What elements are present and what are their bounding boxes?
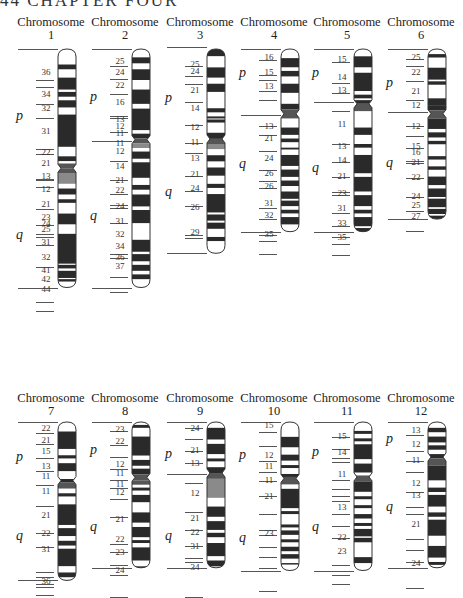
band-label: 14 [111, 162, 129, 171]
band-label: 14 [333, 448, 351, 457]
band-label: 13 [407, 426, 425, 435]
band-boundary-tick [332, 213, 350, 214]
q-arm-label: q [386, 499, 393, 515]
chromosome-body [427, 421, 447, 569]
band-boundary-tick [36, 118, 54, 119]
band-boundary-tick [406, 507, 424, 508]
p-arm-label: p [312, 444, 319, 460]
band-label: 26 [260, 169, 278, 178]
band-label: 21 [111, 176, 129, 185]
band-boundary-tick [406, 539, 424, 540]
p-arm-label: p [16, 449, 23, 465]
band-label: 13 [260, 122, 278, 131]
band-label: 24 [111, 202, 129, 211]
band-label: 15 [333, 432, 351, 441]
band-label: 22 [111, 186, 129, 195]
q-arm-label: q [312, 519, 319, 535]
band-boundary-tick [18, 49, 58, 50]
band-label: 21 [37, 200, 55, 209]
band-label: 44 [37, 285, 55, 294]
band-boundary-tick [406, 81, 424, 82]
band-boundary-tick [406, 451, 424, 452]
band-boundary-tick [388, 422, 428, 423]
band-boundary-tick [36, 595, 54, 596]
band-label: 21 [111, 515, 129, 524]
band-label: 24 [111, 68, 129, 77]
q-arm-label: q [90, 208, 97, 224]
q-arm-label: q [239, 530, 246, 546]
band-label: 14 [186, 104, 204, 113]
band-label: 21 [186, 86, 204, 95]
band-boundary-tick [18, 422, 58, 423]
band-boundary-tick [36, 433, 54, 434]
q-arm-label: q [165, 184, 172, 200]
chromosome-body [57, 421, 77, 581]
band-label: 31 [260, 199, 278, 208]
band-boundary-tick [388, 112, 428, 113]
band-label: 31 [333, 204, 351, 213]
band-label: 16 [407, 148, 425, 157]
band-label: 16 [260, 53, 278, 62]
chromosome-end-line [314, 571, 354, 572]
band-boundary-tick [406, 514, 424, 515]
band-label: 23 [260, 529, 278, 538]
band-label: 22 [37, 529, 55, 538]
band-label: 13 [186, 154, 204, 163]
band-label: 25 [111, 57, 129, 66]
band-label: 31 [186, 542, 204, 551]
band-boundary-tick [332, 575, 350, 576]
band-label: 21 [37, 436, 55, 445]
band-boundary-tick [259, 254, 277, 255]
band-boundary-tick [406, 136, 424, 137]
band-boundary-tick [36, 458, 54, 459]
band-label: 25 [407, 201, 425, 210]
band-boundary-tick [259, 446, 277, 447]
q-arm-label: q [16, 528, 23, 544]
band-boundary-tick [36, 87, 54, 88]
band-label: 13 [37, 172, 55, 181]
band-label: 32 [111, 230, 129, 239]
band-boundary-tick [332, 462, 350, 463]
band-boundary-tick [332, 480, 350, 481]
band-label: 24 [260, 154, 278, 163]
band-label: 22 [407, 173, 425, 182]
chromosome-body [131, 48, 151, 289]
band-boundary-tick [332, 244, 350, 245]
band-label: 23 [111, 548, 129, 557]
band-boundary-tick [259, 514, 277, 515]
band-label: 32 [37, 104, 55, 113]
band-label: 12 [37, 185, 55, 194]
band-label: 12 [111, 488, 129, 497]
band-label: 15 [37, 447, 55, 456]
p-arm-label: p [239, 447, 246, 463]
band-boundary-tick [167, 474, 207, 475]
band-boundary-tick [259, 432, 277, 433]
band-label: 35 [333, 233, 351, 242]
band-label: 29 [186, 228, 204, 237]
band-boundary-tick [388, 49, 428, 50]
band-label: 34 [186, 563, 204, 572]
band-label: 21 [260, 134, 278, 143]
band-label: 13 [260, 82, 278, 91]
chromosome-body [280, 421, 300, 572]
p-arm-label: p [386, 431, 393, 447]
band-label: 11 [333, 120, 351, 129]
band-label: 11 [407, 456, 425, 465]
band-label: 24 [186, 67, 204, 76]
band-boundary-tick [259, 472, 277, 473]
chromosome-title: Chromosome6 [376, 16, 463, 42]
band-label: 12 [407, 440, 425, 449]
band-boundary-tick [259, 568, 277, 569]
band-label: 22 [37, 148, 55, 157]
band-boundary-tick [259, 591, 277, 592]
band-boundary-tick [332, 111, 350, 112]
band-label: 31 [37, 127, 55, 136]
band-label: 31 [37, 238, 55, 247]
band-label: 36 [37, 68, 55, 77]
band-boundary-tick [185, 483, 203, 484]
band-boundary-tick [406, 231, 424, 232]
band-boundary-tick [259, 241, 277, 242]
chromosome-body [353, 421, 373, 572]
band-label: 11 [260, 476, 278, 485]
band-boundary-tick [241, 49, 281, 50]
